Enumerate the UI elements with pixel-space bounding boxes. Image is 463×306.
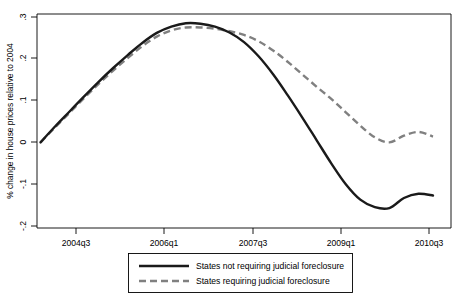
x-axis-ticks	[76, 228, 429, 234]
y-axis-title: % change in house prices relative to 200…	[5, 43, 15, 199]
series-line-states-requiring-judicial-foreclosure	[41, 27, 434, 142]
legend-box	[129, 254, 353, 293]
x-tick-label-3: 2009q1	[327, 238, 356, 248]
x-tick-label-4: 2010q3	[415, 238, 444, 248]
y-axis-ticks	[31, 17, 37, 226]
house-price-line-chart: .3 .2 .1 0 -.1 -.2 % change in house pri…	[0, 0, 463, 306]
chart-figure: .3 .2 .1 0 -.1 -.2 % change in house pri…	[0, 0, 463, 306]
plot-axes	[37, 14, 451, 228]
x-tick-label-2: 2007q3	[239, 238, 268, 248]
y-tick-label-3: 0	[18, 139, 28, 144]
x-tick-label-1: 2006q1	[150, 238, 179, 248]
x-axis-tick-labels: 2004q3 2006q1 2007q3 2009q1 2010q3	[62, 238, 444, 248]
y-tick-label-2: .1	[18, 96, 28, 103]
series-line-states-not-requiring-judicial-foreclosure	[41, 23, 434, 209]
y-tick-label-1: .2	[18, 54, 28, 61]
legend-label-1: States requiring judicial foreclosure	[196, 276, 330, 286]
data-series-group	[41, 23, 434, 209]
y-tick-label-4: -.1	[18, 179, 28, 189]
y-tick-label-5: -.2	[18, 221, 28, 231]
y-axis-tick-labels: .3 .2 .1 0 -.1 -.2	[18, 13, 28, 231]
y-tick-label-0: .3	[18, 13, 28, 20]
chart-legend: States not requiring judicial foreclosur…	[129, 254, 353, 293]
x-tick-label-0: 2004q3	[62, 238, 91, 248]
legend-label-0: States not requiring judicial foreclosur…	[196, 261, 344, 271]
